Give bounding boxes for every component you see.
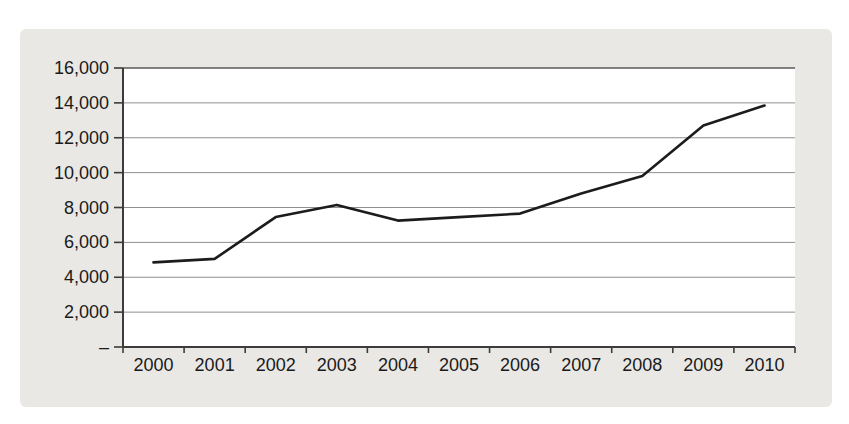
x-axis-tick-label: 2008 <box>622 355 662 375</box>
x-axis-tick-label: 2007 <box>561 355 601 375</box>
x-axis-tick-label: 2005 <box>439 355 479 375</box>
y-axis-tick-label: – <box>99 337 109 357</box>
y-axis-tick-label: 2,000 <box>64 302 109 322</box>
y-axis-tick-label: 16,000 <box>54 58 109 78</box>
x-axis-tick-label: 2009 <box>683 355 723 375</box>
y-axis-tick-label: 10,000 <box>54 163 109 183</box>
x-axis-tick-label: 2006 <box>500 355 540 375</box>
x-axis-tick-label: 2000 <box>134 355 174 375</box>
figure-canvas: –2,0004,0006,0008,00010,00012,00014,0001… <box>0 0 849 424</box>
y-axis-tick-label: 6,000 <box>64 232 109 252</box>
x-axis-tick-label: 2010 <box>744 355 784 375</box>
line-chart: –2,0004,0006,0008,00010,00012,00014,0001… <box>0 0 849 424</box>
x-axis-tick-label: 2002 <box>256 355 296 375</box>
x-axis-tick-label: 2003 <box>317 355 357 375</box>
x-axis-tick-label: 2001 <box>195 355 235 375</box>
x-axis-tick-label: 2004 <box>378 355 418 375</box>
y-axis-tick-label: 8,000 <box>64 198 109 218</box>
y-axis-tick-label: 12,000 <box>54 128 109 148</box>
y-axis-tick-label: 4,000 <box>64 267 109 287</box>
y-axis-tick-label: 14,000 <box>54 93 109 113</box>
